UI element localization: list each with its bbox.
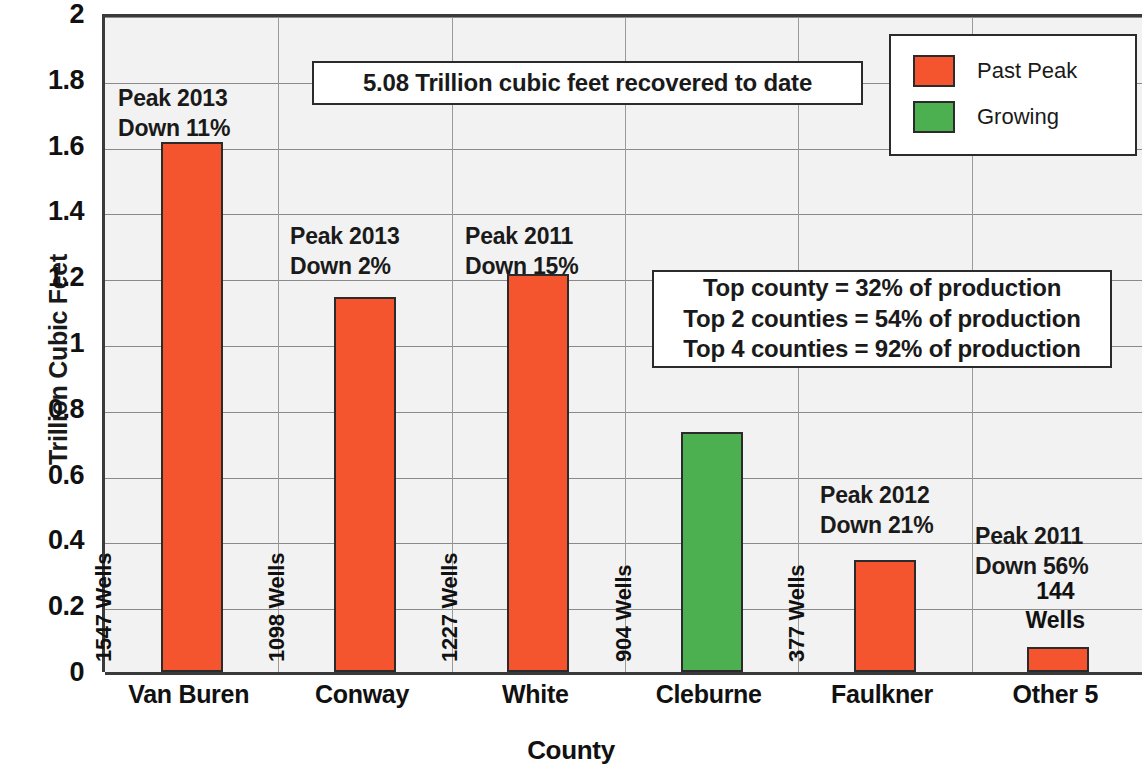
y-axis-tick-label: 0 [69, 657, 84, 688]
bar-conway[interactable]: 1098 Wells [334, 297, 396, 672]
annotation-line1: Peak 2013 [118, 84, 230, 114]
recovered-to-date-textbox: 5.08 Trillion cubic feet recovered to da… [312, 61, 863, 105]
annotation-faulkner: Peak 2012 Down 21% [820, 481, 933, 541]
y-axis-tick-label: 0.8 [48, 393, 84, 424]
bar-value-label: 1098 Wells [264, 553, 290, 662]
bar-value-label-wrap: 1098 Wells [290, 638, 440, 660]
gridline [105, 17, 1142, 18]
bar-value-label-line: Wells [985, 606, 1125, 635]
legend-swatch-growing-icon [913, 101, 955, 133]
y-axis-tick-labels: 21.81.61.41.210.80.60.40.20 [0, 0, 92, 783]
annotation-line2: Down 15% [465, 252, 578, 282]
legend-item-growing: Growing [913, 94, 1135, 140]
x-axis-tick-label: Conway [315, 680, 409, 709]
gridline [105, 412, 1142, 413]
annotation-van-buren: Peak 2013 Down 11% [118, 84, 230, 144]
bar-other-5[interactable] [1027, 647, 1089, 672]
gridline [105, 478, 1142, 479]
x-axis-title: County [0, 735, 1142, 766]
annotation-conway: Peak 2013 Down 2% [290, 222, 399, 282]
bar-value-label: 1547 Wells [91, 553, 117, 662]
gridline [105, 672, 1142, 675]
legend-item-past-peak: Past Peak [913, 48, 1135, 94]
legend-label-growing: Growing [977, 104, 1059, 130]
y-axis-tick-label: 1.4 [48, 196, 84, 227]
category-separator [625, 17, 626, 672]
y-axis-tick-label: 1.2 [48, 262, 84, 293]
x-axis-tick-label: Other 5 [1013, 680, 1098, 709]
bar-white[interactable]: 1227 Wells [507, 274, 569, 672]
annotation-line1: Peak 2011 [465, 222, 578, 252]
bar-van-buren[interactable]: 1547 Wells [161, 142, 223, 672]
x-axis-tick-label: Cleburne [656, 680, 762, 709]
bar-value-label-outside: 144Wells [985, 577, 1125, 635]
x-axis-tick-label: Faulkner [831, 680, 933, 709]
y-axis-tick-label: 0.4 [48, 525, 84, 556]
y-axis-tick-label: 1 [69, 328, 84, 359]
production-summary-line-1: Top county = 32% of production [703, 273, 1061, 304]
annotation-line2: Down 2% [290, 252, 399, 282]
y-axis-tick-label: 1.6 [48, 130, 84, 161]
bar-cleburne[interactable]: 904 Wells [681, 432, 743, 672]
x-axis-tick-labels: Van BurenConwayWhiteCleburneFaulknerOthe… [102, 680, 1142, 720]
x-axis-tick-label: Van Buren [128, 680, 249, 709]
recovered-to-date-text: 5.08 Trillion cubic feet recovered to da… [363, 68, 812, 99]
category-separator [278, 17, 279, 672]
bar-value-label-wrap: 904 Wells [637, 638, 787, 660]
bar-value-label: 904 Wells [611, 565, 637, 662]
x-axis-tick-label: White [502, 680, 569, 709]
y-axis-tick-label: 2 [69, 0, 84, 30]
annotation-line1: Peak 2013 [290, 222, 399, 252]
y-axis-tick-label: 1.8 [48, 64, 84, 95]
production-summary-textbox: Top county = 32% of production Top 2 cou… [652, 270, 1112, 368]
bar-value-label: 1227 Wells [437, 553, 463, 662]
legend-label-past-peak: Past Peak [977, 58, 1077, 84]
annotation-white: Peak 2011 Down 15% [465, 222, 578, 282]
annotation-other-5: Peak 2011 Down 56% [975, 522, 1088, 582]
bar-value-label-line: 144 [985, 577, 1125, 606]
y-axis-tick-label: 0.6 [48, 459, 84, 490]
legend: Past Peak Growing [889, 34, 1137, 156]
bar-faulkner[interactable]: 377 Wells [854, 560, 916, 672]
production-summary-line-2: Top 2 counties = 54% of production [683, 304, 1080, 335]
bar-value-label-wrap: 1227 Wells [463, 638, 613, 660]
annotation-line2: Down 21% [820, 511, 933, 541]
annotation-line1: Peak 2012 [820, 481, 933, 511]
bar-chart: Trillion Cubic Feet 21.81.61.41.210.80.6… [0, 0, 1142, 783]
bar-value-label-wrap: 377 Wells [810, 638, 960, 660]
bar-value-label: 377 Wells [784, 565, 810, 662]
annotation-line1: Peak 2011 [975, 522, 1088, 552]
annotation-line2: Down 11% [118, 114, 230, 144]
legend-swatch-past-peak-icon [913, 55, 955, 87]
production-summary-line-3: Top 4 counties = 92% of production [683, 334, 1080, 365]
y-axis-tick-label: 0.2 [48, 591, 84, 622]
gridline [105, 214, 1142, 215]
bar-value-label-wrap: 1547 Wells [117, 638, 267, 660]
category-separator [452, 17, 453, 672]
